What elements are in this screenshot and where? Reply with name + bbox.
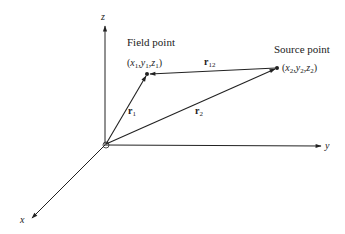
vector-r1-label: r1 (128, 105, 136, 118)
y-axis (105, 145, 321, 146)
field-point-title: Field point (127, 36, 175, 48)
field-point-coords: (x1,y1,z1) (127, 57, 162, 70)
y-axis-label: y (324, 140, 330, 151)
position-vector-diagram: z y x Field point (x1,y1,z1) Source poin… (0, 0, 345, 234)
vector-r12-label: r12 (204, 56, 216, 69)
vector-r1 (106, 76, 146, 144)
source-point-coords: (x2,y2,z2) (282, 62, 317, 75)
field-point-dot (145, 72, 149, 76)
x-axis (32, 145, 105, 218)
source-point-title: Source point (274, 43, 330, 55)
x-axis-label: x (19, 214, 25, 225)
source-point-dot (275, 66, 279, 70)
z-axis-label: z (100, 11, 105, 22)
vector-r2-label: r2 (195, 105, 203, 118)
